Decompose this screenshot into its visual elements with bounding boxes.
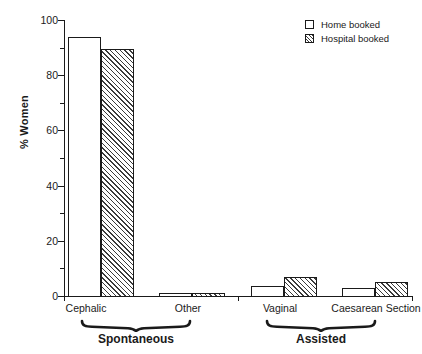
- x-tick: [412, 296, 413, 301]
- group-label-assisted: Assisted: [241, 332, 401, 346]
- y-tick-label: 40: [22, 181, 58, 191]
- y-minor-tick: [60, 103, 64, 104]
- legend-item-hospital-booked: Hospital booked: [305, 31, 389, 45]
- x-label-vaginal: Vaginal: [235, 302, 325, 314]
- bar-vaginal-home: [251, 286, 284, 297]
- y-minor-tick: [60, 48, 64, 49]
- plot-area: [64, 20, 412, 296]
- y-tick-label: 20: [22, 236, 58, 246]
- bar-caesarean-home: [342, 288, 375, 297]
- y-major-tick: [58, 186, 64, 187]
- group-label-spontaneous: Spontaneous: [56, 332, 216, 346]
- y-axis-line: [64, 20, 65, 297]
- y-tick-label: 80: [22, 70, 58, 80]
- x-label-cephalic: Cephalic: [41, 302, 131, 314]
- y-major-tick: [58, 130, 64, 131]
- bar-caesarean-hospital: [375, 282, 408, 297]
- legend-item-home-booked: Home booked: [305, 17, 389, 31]
- bar-vaginal-hospital: [284, 277, 317, 297]
- y-major-tick: [58, 75, 64, 76]
- x-tick: [64, 296, 65, 301]
- bar-other-home: [159, 293, 192, 297]
- y-major-tick: [58, 241, 64, 242]
- bar-chart-figure: % Women 100 80 60 40 20 0: [0, 0, 422, 354]
- y-tick-label: 60: [22, 125, 58, 135]
- bar-cephalic-hospital: [101, 49, 134, 297]
- y-minor-tick: [60, 158, 64, 159]
- legend-swatch-empty-icon: [305, 20, 314, 29]
- y-minor-tick: [60, 268, 64, 269]
- legend-swatch-hatched-icon: [305, 34, 314, 43]
- brace-assisted-icon: [265, 319, 377, 332]
- y-tick-label: 0: [22, 291, 58, 301]
- bar-cephalic-home: [68, 37, 101, 297]
- x-label-other: Other: [143, 302, 233, 314]
- y-minor-tick: [60, 213, 64, 214]
- legend: Home booked Hospital booked: [305, 17, 389, 45]
- legend-label: Home booked: [321, 18, 380, 31]
- x-label-caesarean-section: Caesarean Section: [321, 302, 422, 314]
- legend-label: Hospital booked: [321, 32, 389, 45]
- brace-spontaneous-icon: [80, 319, 192, 332]
- y-tick-label: 100: [22, 15, 58, 25]
- x-tick: [238, 296, 239, 301]
- y-major-tick: [58, 20, 64, 21]
- y-axis-tick-labels: 100 80 60 40 20 0: [16, 20, 58, 297]
- bar-other-hospital: [192, 293, 225, 297]
